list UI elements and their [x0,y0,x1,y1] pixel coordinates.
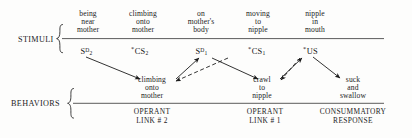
stimulus-symbol-cs1: *CS1 [248,45,265,56]
behavior-description-1: climbing onto mother [126,76,178,101]
behaviors-brace [68,89,74,119]
row-label-behaviors: BEHAVIORS [11,99,60,108]
stimulus-symbol-sd1-sub: 1 [205,50,208,56]
stimulus-description-1: being near mother [65,10,111,35]
stimulus-symbol-cs1-sub: 1 [262,50,265,56]
stimulus-symbol-sd1: SD1 [195,45,208,56]
row-label-stimuli: STIMULI [18,35,54,44]
behavior-description-3: suck and swallow [327,76,379,101]
phase-label-operant-link-1: OPERANT LINK # 1 [231,108,299,125]
stimulus-symbol-sd2: SD2 [80,45,93,56]
stimulus-symbol-us-base: US [307,47,318,56]
arrow-climbing-to-sd1 [176,58,199,79]
stimulus-symbol-cs2: *CS2 [131,45,148,56]
stimulus-symbol-cs2-base: CS [135,47,146,56]
stimulus-symbol-sd2-sub: 2 [90,50,93,56]
phase-label-consummatory-response: CONSUMMATORY RESPONSE [303,108,403,125]
behavior-description-2: crawl to nipple [239,76,285,101]
arrow-cs2-to-climbing [176,58,228,81]
stimulus-symbol-us: *US [303,45,318,56]
stimuli-brace [57,25,63,53]
stimulus-description-4: moving to nipple [235,10,281,35]
stimulus-description-2: climbing onto mother [117,10,169,35]
stimulus-symbol-cs1-base: CS [252,47,263,56]
stimulus-description-3: on mother's body [178,10,224,35]
chain-diagram: STIMULI BEHAVIORS being near mother clim… [0,0,412,138]
phase-label-operant-link-2: OPERANT LINK # 2 [118,108,186,125]
stimulus-description-5: nipple in mouth [292,10,338,35]
stimulus-symbol-cs2-sub: 2 [145,50,148,56]
